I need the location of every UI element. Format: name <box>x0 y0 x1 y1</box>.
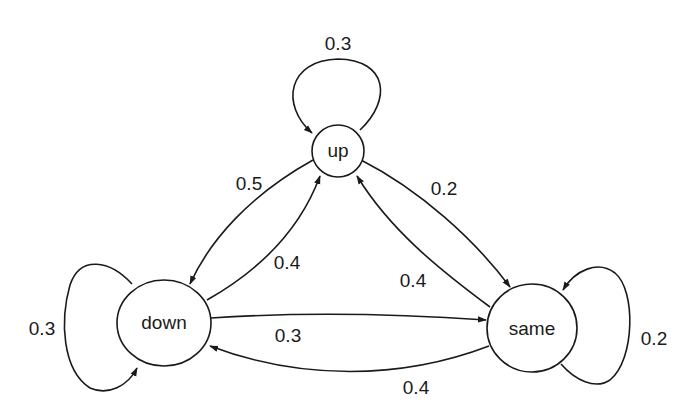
node-up: up <box>312 125 364 177</box>
node-down: down <box>117 280 211 366</box>
edge-label-up-same: 0.2 <box>431 178 457 199</box>
edge-label-same-down: 0.4 <box>403 377 430 398</box>
edge-label-same-up: 0.4 <box>400 270 427 291</box>
edge-label-down-down: 0.3 <box>29 318 55 339</box>
node-label-down: down <box>141 312 186 333</box>
edge-label-up-down: 0.5 <box>236 173 262 194</box>
node-same: same <box>487 284 577 372</box>
edge-down-same <box>211 314 486 320</box>
edge-label-up-up: 0.3 <box>325 33 351 54</box>
edge-down-up <box>207 176 320 300</box>
state-transition-diagram: up down same 0.3 0.5 0.2 0.4 0.3 0.3 0.4… <box>0 0 696 418</box>
edge-up-up <box>293 59 381 133</box>
edge-same-down <box>210 346 489 372</box>
node-label-up: up <box>327 140 348 161</box>
edge-label-down-same: 0.3 <box>275 325 301 346</box>
edge-label-same-same: 0.2 <box>641 328 667 349</box>
edge-label-down-up: 0.4 <box>274 252 301 273</box>
node-label-same: same <box>509 318 555 339</box>
